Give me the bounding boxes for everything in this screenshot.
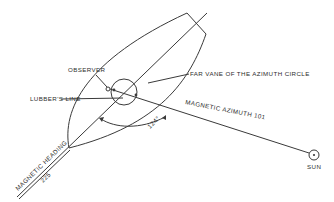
relative-bearing-arrowhead xyxy=(99,117,104,122)
observer-marker xyxy=(106,87,110,91)
far-vane-dot xyxy=(135,94,138,97)
observer-pointer xyxy=(96,75,107,87)
azimuth-diagram: OBSERVER LUBBER'S LINE FAR VANE OF THE A… xyxy=(0,0,334,202)
relative-bearing-arrowhead-end xyxy=(162,115,166,120)
far-vane-label: FAR VANE OF THE AZIMUTH CIRCLE xyxy=(190,70,310,77)
far-vane-pointer xyxy=(148,74,189,83)
relative-bearing-label: 124° xyxy=(146,114,161,129)
ship-hull-right xyxy=(69,34,206,148)
lubbers-line-label: LUBBER'S LINE xyxy=(30,95,81,102)
azimuth-sight-line xyxy=(110,89,309,153)
magnetic-heading-value: 225 xyxy=(39,171,52,184)
ship-hull-left xyxy=(68,13,187,148)
heading-line xyxy=(17,13,207,197)
observer-label: OBSERVER xyxy=(68,66,106,73)
magnetic-heading-label: MAGNETIC HEADING xyxy=(14,139,68,192)
sun-center-dot xyxy=(313,154,315,156)
sun-label: SUN xyxy=(307,163,321,170)
azimuth-circle xyxy=(111,79,137,105)
